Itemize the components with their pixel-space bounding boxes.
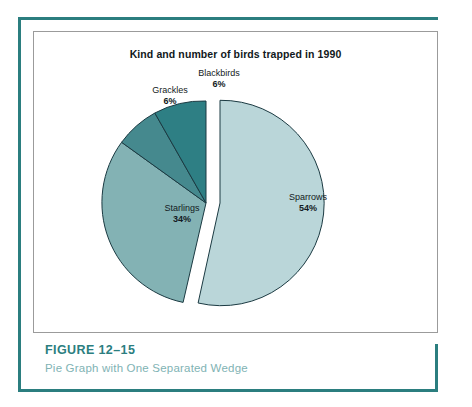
pie-label-starlings-name: Starlings: [142, 203, 222, 214]
frame-rule-right: [435, 344, 438, 392]
pie-label-starlings: Starlings 34%: [142, 203, 222, 225]
pie-label-sparrows: Sparrows 54%: [268, 192, 348, 214]
frame-rule-left: [18, 17, 21, 392]
frame-rule-bottom: [18, 389, 438, 392]
pie-label-blackbirds-name: Blackbirds: [174, 68, 264, 79]
figure-caption: FIGURE 12–15 Pie Graph with One Separate…: [45, 343, 425, 376]
pie-label-grackles-value: 6%: [130, 96, 210, 107]
pie-label-starlings-value: 34%: [142, 214, 222, 225]
figure-caption-text: Pie Graph with One Separated Wedge: [45, 361, 425, 376]
pie-chart: Blackbirds 6% Grackles 6% Starlings 34% …: [34, 32, 439, 334]
pie-label-grackles-name: Grackles: [130, 85, 210, 96]
frame-rule-top: [18, 17, 438, 20]
chart-panel: Kind and number of birds trapped in 1990…: [33, 31, 438, 333]
figure-page: Kind and number of birds trapped in 1990…: [0, 0, 472, 407]
pie-label-grackles: Grackles 6%: [130, 85, 210, 107]
pie-label-sparrows-value: 54%: [268, 203, 348, 214]
figure-number: FIGURE 12–15: [45, 343, 425, 359]
pie-label-sparrows-name: Sparrows: [268, 192, 348, 203]
